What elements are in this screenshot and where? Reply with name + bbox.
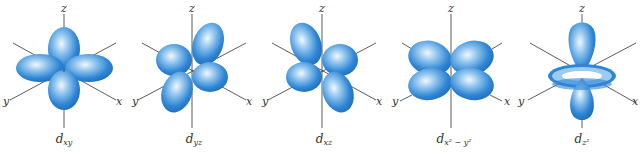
y-axis-label: y (262, 96, 268, 107)
orbital-label-dxz: dxz (260, 133, 388, 147)
y-axis-label: y (132, 96, 138, 107)
z-axis-label: z (61, 3, 67, 14)
dxz-orbital-diagram (260, 0, 388, 154)
x-axis-label: x (376, 96, 382, 107)
z-axis-label: z (579, 3, 585, 14)
dxy-orbital-diagram (0, 0, 128, 154)
orbital-panel-dz2: z y x dz² (512, 0, 640, 154)
orbital-panel-dxz: z y x dxz (260, 0, 388, 154)
z-axis-label: z (448, 3, 454, 14)
x-axis-label: x (116, 96, 122, 107)
y-axis-label: y (392, 96, 398, 107)
orbital-label-dx2-y2: dx² − y² (390, 133, 518, 147)
dyz-orbital-diagram (130, 0, 258, 154)
orbital-panel-dyz: z y x dyz (130, 0, 258, 154)
dx2-y2-orbital-diagram (390, 0, 518, 154)
orbital-label-dz2: dz² (518, 133, 640, 147)
x-axis-label: x (632, 96, 638, 107)
z-axis-label: z (189, 3, 195, 14)
y-axis-label: y (3, 96, 9, 107)
orbital-label-dxy: dxy (0, 133, 128, 147)
x-axis-label: x (246, 96, 252, 107)
y-axis-label: y (518, 96, 524, 107)
dz2-orbital-diagram (512, 0, 640, 154)
orbital-panel-dx2-y2: z y x dx² − y² (390, 0, 518, 154)
x-axis-label: x (504, 96, 510, 107)
orbital-label-dyz: dyz (130, 133, 258, 147)
orbital-panel-dxy: z y x dxy (0, 0, 128, 154)
z-axis-label: z (319, 3, 325, 14)
